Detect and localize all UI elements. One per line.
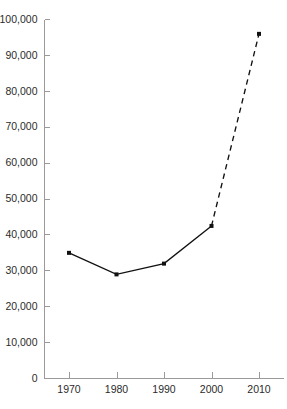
y-axis: 010,00020,00030,00040,00050,00060,00070,… — [0, 13, 50, 384]
chart-canvas: 010,00020,00030,00040,00050,00060,00070,… — [0, 0, 287, 409]
y-axis-tick-label: 70,000 — [5, 120, 37, 132]
y-axis-tick-label: 100,000 — [0, 13, 38, 25]
data-point-marker — [115, 272, 119, 276]
x-axis-tick-label: 2000 — [200, 383, 224, 395]
data-point-marker — [67, 251, 71, 255]
y-axis-tick-label: 80,000 — [5, 85, 37, 97]
x-axis-tick-labels: 19701980199020002010 — [57, 383, 271, 395]
data-point-marker — [257, 32, 261, 36]
x-axis-tick-label: 2010 — [247, 383, 271, 395]
observed-line — [69, 226, 212, 274]
x-axis: 19701980199020002010 — [45, 372, 284, 395]
x-axis-tick-label: 1990 — [152, 383, 176, 395]
y-axis-tick-label: 40,000 — [5, 228, 37, 240]
y-axis-ticks — [45, 20, 50, 343]
y-axis-tick-label: 30,000 — [5, 264, 37, 276]
y-axis-tick-label: 10,000 — [5, 336, 37, 348]
line-chart: 010,00020,00030,00040,00050,00060,00070,… — [0, 0, 287, 409]
y-axis-tick-label: 60,000 — [5, 156, 37, 168]
data-point-marker — [210, 224, 214, 228]
x-axis-tick-label: 1980 — [105, 383, 129, 395]
data-point-marker — [162, 262, 166, 266]
y-axis-tick-label: 50,000 — [5, 192, 37, 204]
y-axis-tick-labels: 010,00020,00030,00040,00050,00060,00070,… — [0, 13, 38, 384]
x-axis-ticks — [70, 372, 260, 379]
y-axis-tick-label: 20,000 — [5, 300, 37, 312]
x-axis-tick-label: 1970 — [57, 383, 81, 395]
y-axis-tick-label: 90,000 — [5, 49, 37, 61]
data-series-group — [67, 32, 261, 277]
data-point-markers — [67, 32, 261, 277]
projected-line — [212, 34, 260, 226]
y-axis-tick-label: 0 — [32, 372, 38, 384]
